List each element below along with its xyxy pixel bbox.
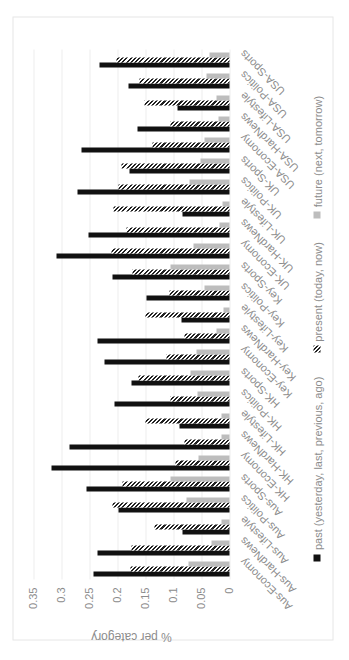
- bar-present: [126, 227, 229, 232]
- bar-future: [218, 116, 229, 121]
- bar-future: [211, 540, 229, 545]
- y-tick-label: 0: [222, 587, 234, 621]
- bar-group: [33, 558, 229, 579]
- bar-future: [196, 349, 229, 354]
- bar-present: [169, 290, 229, 295]
- legend: past (yesterday, last, previous, ago)pre…: [310, 17, 323, 639]
- bar-present: [152, 142, 229, 147]
- bar-group: [33, 494, 229, 515]
- bar-group: [33, 537, 229, 558]
- bar-present: [138, 375, 229, 380]
- bar-past: [97, 338, 229, 343]
- bar-past: [81, 147, 229, 152]
- bar-past: [51, 465, 229, 470]
- bar-past: [118, 507, 229, 512]
- bar-present: [175, 460, 229, 465]
- bar-future: [221, 519, 229, 524]
- bar-group: [33, 49, 229, 70]
- bar-present: [122, 481, 229, 486]
- bar-future: [204, 285, 229, 290]
- bar-group: [33, 197, 229, 218]
- bar-future: [204, 137, 229, 142]
- bar-present: [132, 269, 229, 274]
- bar-past: [137, 126, 229, 131]
- bar-future: [197, 391, 229, 396]
- legend-swatch-icon: [313, 211, 320, 218]
- bar-present: [131, 545, 229, 550]
- bar-group: [33, 388, 229, 409]
- bar-present: [116, 57, 229, 62]
- legend-item-future: future (next, tomorrow): [311, 95, 323, 217]
- bar-group: [33, 113, 229, 134]
- bar-past: [131, 380, 229, 385]
- bar-future: [216, 95, 229, 100]
- bar-present: [118, 184, 229, 189]
- bar-group: [33, 134, 229, 155]
- rotated-chart: % per category 00.050.10.150.20.250.30.3…: [0, 0, 349, 660]
- bar-past: [77, 189, 229, 194]
- bar-future: [188, 561, 229, 566]
- bar-present: [111, 248, 229, 253]
- bar-group: [33, 70, 229, 91]
- bar-present: [144, 100, 229, 105]
- bar-group: [33, 155, 229, 176]
- chart-frame: % per category 00.050.10.150.20.250.30.3…: [12, 16, 333, 640]
- bar-past: [86, 486, 229, 491]
- bar-future: [198, 455, 229, 460]
- legend-label: future (next, tomorrow): [311, 95, 323, 206]
- bar-present: [139, 78, 229, 83]
- bar-group: [33, 431, 229, 452]
- bar-future: [222, 201, 229, 206]
- bar-future: [189, 179, 229, 184]
- bar-past: [182, 529, 229, 534]
- bar-present: [184, 439, 229, 444]
- bar-future: [221, 434, 229, 439]
- bar-past: [97, 550, 229, 555]
- bar-past: [56, 253, 229, 258]
- bar-group: [33, 261, 229, 282]
- bar-past: [114, 401, 229, 406]
- bar-group: [33, 473, 229, 494]
- bar-future: [193, 243, 229, 248]
- bar-past: [146, 295, 229, 300]
- bar-past: [104, 359, 229, 364]
- bar-future: [219, 222, 229, 227]
- y-tick-label: 0.05: [194, 587, 206, 621]
- y-tick-label: 0.15: [138, 587, 150, 621]
- bar-present: [130, 566, 229, 571]
- bar-group: [33, 303, 229, 324]
- legend-label: past (yesterday, last, previous, ago): [311, 376, 323, 549]
- bar-group: [33, 452, 229, 473]
- y-tick-label: 0.1: [166, 587, 178, 621]
- bar-present: [145, 312, 229, 317]
- bar-present: [121, 163, 229, 168]
- bar-past: [112, 274, 229, 279]
- bar-past: [99, 62, 229, 67]
- bar-future: [170, 264, 229, 269]
- bar-future: [170, 476, 229, 481]
- bar-future: [209, 52, 229, 57]
- y-tick-label: 0.25: [82, 587, 94, 621]
- bar-past: [182, 211, 229, 216]
- bar-past: [129, 168, 229, 173]
- bar-group: [33, 219, 229, 240]
- bar-past: [93, 571, 229, 576]
- bar-group: [33, 282, 229, 303]
- bar-past: [69, 444, 229, 449]
- bar-group: [33, 409, 229, 430]
- bar-group: [33, 515, 229, 536]
- bar-group: [33, 367, 229, 388]
- y-tick-label: 0.35: [26, 587, 38, 621]
- bar-past: [177, 105, 229, 110]
- bar-future: [186, 497, 229, 502]
- plot-area: % per category 00.050.10.150.20.250.30.3…: [33, 49, 229, 579]
- bar-present: [145, 418, 229, 423]
- legend-item-present: present (today, now): [311, 242, 323, 352]
- bar-group: [33, 346, 229, 367]
- legend-label: present (today, now): [311, 242, 323, 341]
- bar-present: [184, 333, 229, 338]
- bar-group: [33, 240, 229, 261]
- y-tick-label: 0.2: [110, 587, 122, 621]
- legend-item-past: past (yesterday, last, previous, ago): [311, 376, 323, 560]
- y-axis-label: % per category: [91, 629, 172, 643]
